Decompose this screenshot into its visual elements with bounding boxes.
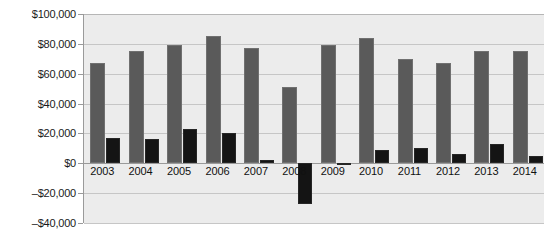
bar-series-b-2011 bbox=[414, 148, 428, 163]
bar-series-b-2005 bbox=[183, 129, 197, 163]
bar-series-a-2009 bbox=[321, 45, 336, 163]
y-tick-label: –$40,000 bbox=[0, 217, 76, 229]
bar-series-b-2007 bbox=[260, 160, 274, 163]
bar-series-b-2009 bbox=[337, 163, 351, 165]
bar-series-b-2014 bbox=[529, 156, 543, 164]
bar-series-a-2014 bbox=[513, 51, 528, 163]
gridline--40000 bbox=[84, 223, 544, 224]
x-tick-label-2005: 2005 bbox=[160, 165, 198, 177]
y-axis: $100,000$80,000$60,000$40,000$20,000$0–$… bbox=[0, 0, 78, 233]
gridline--20000 bbox=[84, 193, 544, 194]
y-tick-label: $20,000 bbox=[0, 127, 76, 139]
y-tick-label: $60,000 bbox=[0, 68, 76, 80]
y-tick-label: $40,000 bbox=[0, 98, 76, 110]
bar-series-a-2013 bbox=[474, 51, 489, 163]
x-tick-label-2013: 2013 bbox=[467, 165, 505, 177]
gridline-80000 bbox=[84, 44, 544, 45]
bar-series-b-2006 bbox=[222, 133, 236, 163]
bar-series-b-2003 bbox=[106, 138, 120, 163]
y-tick-label: $100,000 bbox=[0, 8, 76, 20]
bar-series-a-2006 bbox=[206, 36, 221, 163]
x-tick-label-2004: 2004 bbox=[121, 165, 159, 177]
bar-series-a-2008 bbox=[282, 87, 297, 163]
gridline-100000 bbox=[84, 14, 544, 15]
bar-series-a-2005 bbox=[167, 45, 182, 163]
bar-chart: $100,000$80,000$60,000$40,000$20,000$0–$… bbox=[0, 0, 553, 233]
y-tick-mark bbox=[78, 223, 83, 224]
bar-series-b-2010 bbox=[375, 150, 389, 163]
bar-series-a-2012 bbox=[436, 63, 451, 163]
y-tick-label: $80,000 bbox=[0, 38, 76, 50]
x-tick-label-2010: 2010 bbox=[352, 165, 390, 177]
gridline-0 bbox=[84, 163, 544, 164]
bar-series-a-2010 bbox=[359, 38, 374, 163]
plot-area bbox=[83, 14, 544, 223]
bar-series-b-2013 bbox=[490, 144, 504, 163]
x-tick-label-2007: 2007 bbox=[237, 165, 275, 177]
x-tick-label-2009: 2009 bbox=[314, 165, 352, 177]
x-tick-label-2011: 2011 bbox=[390, 165, 428, 177]
bar-series-a-2007 bbox=[244, 48, 259, 163]
bar-series-b-2012 bbox=[452, 154, 466, 163]
x-tick-label-2003: 2003 bbox=[83, 165, 121, 177]
bar-series-b-2004 bbox=[145, 139, 159, 163]
y-tick-label: $0 bbox=[0, 157, 76, 169]
bar-series-a-2004 bbox=[129, 51, 144, 163]
x-tick-label-2008: 2008 bbox=[275, 165, 313, 177]
bar-series-a-2011 bbox=[398, 59, 413, 164]
x-tick-label-2012: 2012 bbox=[429, 165, 467, 177]
y-tick-label: –$20,000 bbox=[0, 187, 76, 199]
bar-series-a-2003 bbox=[90, 63, 105, 163]
x-tick-label-2014: 2014 bbox=[506, 165, 544, 177]
x-tick-label-2006: 2006 bbox=[198, 165, 236, 177]
